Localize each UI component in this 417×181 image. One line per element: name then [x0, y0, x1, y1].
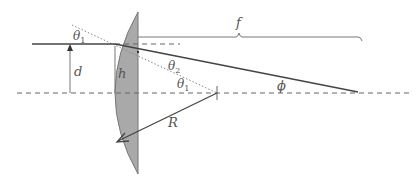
d-arrow-head-icon — [67, 44, 73, 51]
surface-normal-line — [72, 25, 217, 93]
refracted-ray — [115, 44, 358, 92]
label-theta1-center: θ1 — [177, 77, 189, 93]
exit-point-marker — [137, 51, 139, 53]
label-theta2: θ2 — [168, 59, 180, 75]
focal-length-bracket — [138, 33, 362, 41]
label-h: h — [118, 66, 126, 81]
label-R: R — [167, 115, 178, 130]
optics-diagram: θ1 θ2 θ1 d h f R ϕ — [0, 0, 417, 181]
diagram-canvas: θ1 θ2 θ1 d h f R ϕ — [0, 0, 417, 181]
label-theta1-top: θ1 — [73, 29, 85, 45]
label-d: d — [74, 64, 82, 79]
label-f: f — [235, 15, 243, 30]
label-phi: ϕ — [277, 78, 286, 93]
